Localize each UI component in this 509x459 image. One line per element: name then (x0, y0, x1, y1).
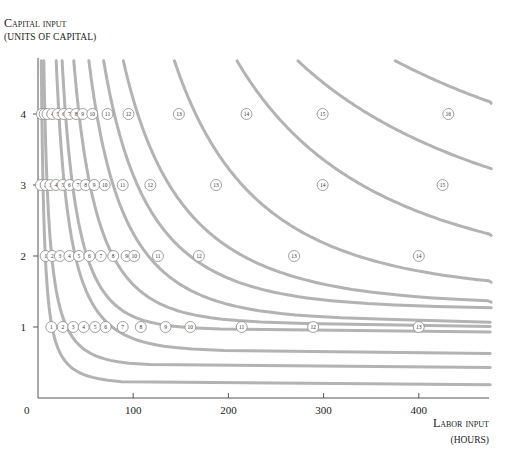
marker-label: 2 (51, 253, 54, 259)
marker-label: 7 (121, 324, 124, 330)
marker-label: 16 (446, 111, 452, 117)
marker-label: 12 (148, 182, 154, 188)
output-marker: 14 (241, 109, 252, 120)
isoquant-curve-10 (89, 61, 490, 322)
output-marker: 11 (152, 251, 163, 262)
x-tick-label: 100 (125, 404, 142, 416)
output-marker: 10 (185, 322, 196, 333)
marker-label: 4 (82, 324, 85, 330)
output-marker: 4 (78, 322, 89, 333)
output-marker: 6 (84, 251, 95, 262)
marker-label: 11 (155, 253, 161, 259)
marker-label: 14 (416, 253, 422, 259)
output-marker: 8 (108, 251, 119, 262)
output-marker: 1 (46, 322, 57, 333)
output-marker: 9 (160, 322, 171, 333)
marker-label: 9 (125, 253, 128, 259)
output-marker: 16 (443, 109, 454, 120)
x-tick-label: 400 (411, 404, 428, 416)
isoquant-chart: 01002003004001234 1234567891011121314151… (0, 0, 509, 459)
output-marker: 12 (193, 251, 204, 262)
output-marker: 13 (413, 322, 424, 333)
isoquant-curve-13 (174, 61, 491, 282)
marker-label: 5 (94, 324, 97, 330)
marker-label: 6 (104, 324, 107, 330)
output-marker: 15 (437, 180, 448, 191)
marker-label: 11 (105, 111, 111, 117)
isoquant-curve-8 (74, 61, 490, 327)
marker-label: 12 (196, 253, 202, 259)
output-marker: 6 (100, 322, 111, 333)
marker-label: 4 (68, 253, 71, 259)
output-marker: 9 (89, 180, 100, 191)
x-tick-label: 200 (220, 404, 237, 416)
output-marker: 10 (87, 109, 98, 120)
marker-label: 15 (320, 111, 326, 117)
marker-label: 8 (139, 324, 142, 330)
marker-label: 10 (90, 111, 96, 117)
marker-label: 10 (102, 182, 108, 188)
output-marker: 13 (289, 251, 300, 262)
marker-label: 6 (68, 182, 71, 188)
output-marker: 5 (73, 251, 84, 262)
output-marker: 12 (145, 180, 156, 191)
marker-label: 13 (291, 253, 297, 259)
marker-label: 3 (59, 253, 62, 259)
marker-label: 13 (213, 182, 219, 188)
output-marker: 8 (135, 322, 146, 333)
marker-label: 13 (176, 111, 182, 117)
marker-label: 13 (416, 324, 422, 330)
isoquant-curve-16 (395, 61, 491, 104)
output-marker: 14 (413, 251, 424, 262)
output-marker: 13 (211, 180, 222, 191)
output-marker: 5 (90, 322, 101, 333)
axis-ticks: 01002003004001234 (21, 108, 428, 416)
marker-label: 7 (77, 182, 80, 188)
marker-label: 11 (120, 182, 126, 188)
marker-label: 9 (81, 111, 84, 117)
marker-label: 12 (126, 111, 132, 117)
output-marker: 11 (102, 109, 113, 120)
output-marker: 2 (57, 322, 68, 333)
y-tick-label: 1 (21, 321, 27, 333)
output-marker: 10 (129, 251, 140, 262)
marker-label: 14 (320, 182, 326, 188)
isoquant-curve-12 (123, 61, 491, 302)
marker-label: 9 (93, 182, 96, 188)
marker-label: 2 (61, 324, 64, 330)
output-marker: 7 (95, 251, 106, 262)
output-marker: 15 (317, 109, 328, 120)
marker-label: 12 (310, 324, 316, 330)
output-marker: 3 (68, 322, 79, 333)
origin-label: 0 (24, 404, 30, 416)
output-marker: 14 (317, 180, 328, 191)
y-tick-label: 3 (21, 179, 27, 191)
marker-label: 8 (112, 253, 115, 259)
x-tick-label: 300 (315, 404, 332, 416)
output-marker: 10 (99, 180, 110, 191)
output-marker: 12 (123, 109, 134, 120)
output-marker: 11 (236, 322, 247, 333)
output-marker: 7 (117, 322, 128, 333)
marker-label: 1 (50, 324, 53, 330)
marker-label: 14 (244, 111, 250, 117)
marker-label: 5 (78, 253, 81, 259)
marker-label: 15 (440, 182, 446, 188)
output-marker: 12 (308, 322, 319, 333)
marker-label: 6 (88, 253, 91, 259)
output-marker: 13 (173, 109, 184, 120)
marker-label: 10 (131, 253, 137, 259)
marker-label: 10 (188, 324, 194, 330)
y-tick-label: 2 (21, 250, 27, 262)
marker-label: 7 (99, 253, 102, 259)
marker-label: 3 (72, 324, 75, 330)
y-tick-label: 4 (21, 108, 27, 120)
marker-label: 11 (239, 324, 245, 330)
marker-label: 8 (84, 182, 87, 188)
output-marker: 11 (117, 180, 128, 191)
marker-label: 9 (164, 324, 167, 330)
